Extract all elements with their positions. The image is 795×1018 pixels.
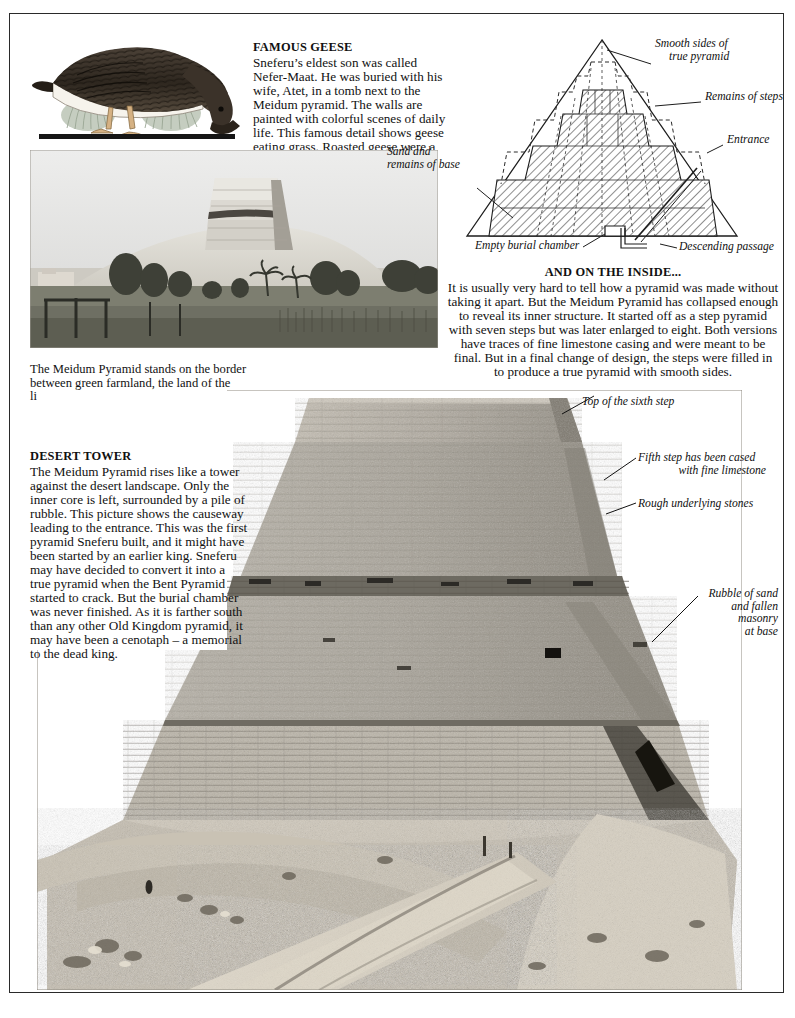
label-sand-and-base: Sand and remains of base	[387, 146, 477, 171]
goose-illustration	[31, 33, 249, 141]
annotation-rubble: Rubble of sand and fallen masonry at bas…	[700, 588, 778, 638]
desert-tower-heading: DESERT TOWER	[30, 449, 248, 464]
inside-block: AND ON THE INSIDE... It is usually very …	[447, 265, 779, 379]
annotation-rough-stones: Rough underlying stones	[638, 498, 778, 511]
label-remains-of-steps: Remains of steps	[705, 91, 795, 104]
label-entrance: Entrance	[727, 134, 795, 147]
desert-tower-block: DESERT TOWER The Meidum Pyramid rises li…	[30, 449, 248, 661]
annotation-top-sixth-step: Top of the sixth step	[582, 396, 722, 409]
label-smooth-sides: Smooth sides of true pyramid	[655, 38, 775, 63]
landscape-photo	[30, 150, 438, 348]
annotation-fifth-step: Fifth step has been cased with fine lime…	[638, 452, 766, 477]
desert-tower-paragraph: The Meidum Pyramid rises like a tower ag…	[30, 465, 248, 661]
label-empty-burial-chamber: Empty burial chamber	[475, 240, 595, 253]
page-root: FAMOUS GEESE Sneferu’s eldest son was ca…	[0, 0, 795, 1018]
famous-geese-heading: FAMOUS GEESE	[253, 40, 449, 55]
cutaway-diagram: Smooth sides of true pyramid Remains of …	[455, 28, 785, 258]
inside-heading: AND ON THE INSIDE...	[447, 265, 779, 280]
inside-paragraph: It is usually very hard to tell how a py…	[447, 281, 779, 379]
label-descending-passage: Descending passage	[679, 241, 795, 254]
